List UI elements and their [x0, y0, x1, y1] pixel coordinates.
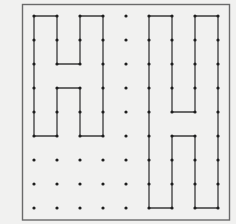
grid-dot — [78, 14, 81, 17]
grid-dot — [32, 38, 35, 41]
grid-dot — [216, 182, 219, 185]
grid-dot — [147, 62, 150, 65]
grid-dot — [193, 134, 196, 137]
grid-dot — [32, 86, 35, 89]
grid-dot — [216, 134, 219, 137]
grid-dot — [55, 14, 58, 17]
grid-dot — [55, 206, 58, 209]
left-h-shape — [34, 16, 103, 136]
grid-dot — [55, 38, 58, 41]
grid-dot — [170, 134, 173, 137]
grid-dot — [32, 182, 35, 185]
grid-dot — [101, 86, 104, 89]
grid-dot — [216, 14, 219, 17]
grid-dot — [124, 206, 127, 209]
grid-dot — [216, 86, 219, 89]
grid-dot — [101, 182, 104, 185]
grid-dot — [193, 110, 196, 113]
grid-dot — [147, 110, 150, 113]
grid-dot — [170, 86, 173, 89]
right-h-shape — [149, 16, 218, 208]
grid-dot — [101, 206, 104, 209]
grid-dot — [124, 62, 127, 65]
grid-dot — [55, 86, 58, 89]
grid-dot — [216, 110, 219, 113]
grid-dot — [170, 158, 173, 161]
grid-dot — [55, 182, 58, 185]
grid-dot — [193, 38, 196, 41]
grid-dot — [32, 158, 35, 161]
grid-dot — [147, 182, 150, 185]
grid-dot — [170, 62, 173, 65]
grid-dot — [147, 134, 150, 137]
grid-dot — [78, 86, 81, 89]
grid-dot — [101, 38, 104, 41]
grid-dot — [216, 158, 219, 161]
grid-dot — [147, 158, 150, 161]
grid-dot — [170, 182, 173, 185]
grid-dot — [78, 62, 81, 65]
grid-dot — [124, 14, 127, 17]
grid-dot — [78, 158, 81, 161]
grid-dot — [124, 182, 127, 185]
grid-dot — [170, 38, 173, 41]
grid-dot — [124, 158, 127, 161]
dot-grid-canvas — [0, 0, 236, 224]
grid-dot — [147, 38, 150, 41]
grid-dot — [32, 134, 35, 137]
grid-dot — [32, 14, 35, 17]
grid-dot — [124, 134, 127, 137]
grid-dot — [147, 206, 150, 209]
grid-dot — [101, 134, 104, 137]
grid-dot — [193, 86, 196, 89]
grid-dot — [193, 62, 196, 65]
grid-dot — [78, 206, 81, 209]
grid-dot — [170, 206, 173, 209]
grid-dot — [101, 14, 104, 17]
grid-dot — [78, 134, 81, 137]
grid-dot — [32, 110, 35, 113]
grid-dot — [55, 62, 58, 65]
grid-dot — [124, 38, 127, 41]
grid-dot — [147, 86, 150, 89]
grid-dot — [32, 206, 35, 209]
grid-dot — [216, 38, 219, 41]
grid-dot — [78, 38, 81, 41]
grid-dot — [124, 86, 127, 89]
grid-dot — [193, 158, 196, 161]
grid-dot — [147, 14, 150, 17]
grid-dot — [193, 182, 196, 185]
grid-dot — [216, 62, 219, 65]
grid-dot — [101, 158, 104, 161]
grid-dot — [193, 14, 196, 17]
grid-dot — [55, 134, 58, 137]
dot-grid-diagram — [0, 0, 236, 224]
grid-dot — [55, 110, 58, 113]
grid-dot — [55, 158, 58, 161]
grid-dot — [32, 62, 35, 65]
grid-dot — [193, 206, 196, 209]
grid-dot — [78, 110, 81, 113]
grid-dot — [101, 62, 104, 65]
grid-dot — [101, 110, 104, 113]
grid-dot — [78, 182, 81, 185]
grid-dot — [170, 110, 173, 113]
grid-dot — [124, 110, 127, 113]
grid-dot — [216, 206, 219, 209]
grid-dot — [170, 14, 173, 17]
